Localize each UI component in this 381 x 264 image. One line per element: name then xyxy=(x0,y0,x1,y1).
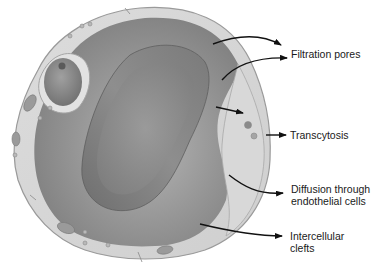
label-intercellular-clefts-line-1: Intercellular xyxy=(290,230,344,242)
label-filtration-pores: Filtration pores xyxy=(291,48,360,60)
label-intercellular-clefts: Intercellular clefts xyxy=(290,230,344,254)
label-intercellular-clefts-line-2: clefts xyxy=(290,242,344,254)
label-transcytosis-text: Transcytosis xyxy=(290,129,349,141)
label-filtration-pores-text: Filtration pores xyxy=(291,48,360,60)
label-diffusion-line-2: endothelial cells xyxy=(291,195,370,207)
label-diffusion-line-1: Diffusion through xyxy=(291,183,370,195)
label-diffusion: Diffusion through endothelial cells xyxy=(291,183,370,207)
label-transcytosis: Transcytosis xyxy=(290,129,349,141)
capillary-diagram: Filtration pores Transcytosis Diffusion … xyxy=(0,0,381,264)
